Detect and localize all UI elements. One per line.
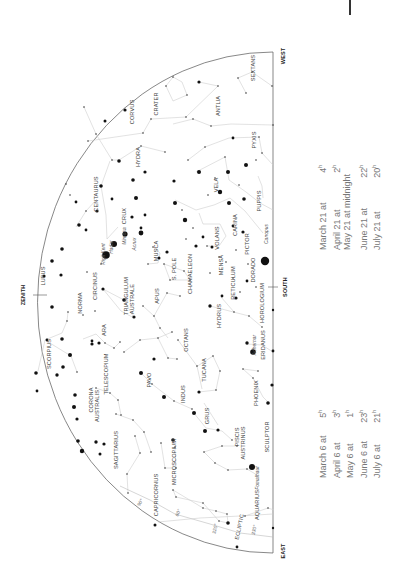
- constellation-label: SCULPTOR: [265, 421, 271, 452]
- star-label: Acrux: [133, 238, 138, 251]
- constellation-label: DORADO: [251, 257, 257, 282]
- constellation-label: INDUS: [181, 385, 187, 403]
- constellation-label: PICTOR: [245, 233, 251, 255]
- star-label: Fomalhaut: [256, 466, 261, 490]
- constellation-label: AUSTRINUS: [241, 426, 247, 459]
- constellation-label: NORMA: [78, 292, 84, 313]
- constellation-label: CORVUS: [130, 100, 136, 124]
- time-row: April 6 at3h: [328, 410, 342, 478]
- constellation-label: CARINA: [233, 214, 239, 236]
- constellation-label: CHAMAELEON: [188, 254, 194, 294]
- constellation-label: CRUX: [122, 208, 128, 224]
- constellation-label: HYDRUS: [217, 304, 223, 328]
- hour-superscript: h: [331, 410, 337, 413]
- constellation-label: PUPPIS: [257, 190, 263, 211]
- constellation-label: SAGITTARIUS: [114, 431, 120, 469]
- constellation-label: AUSTRALE: [130, 284, 136, 314]
- constellation-label: CIRCINUS: [93, 272, 99, 300]
- constellation-label: S. POLE: [172, 258, 178, 280]
- constellation-label: HYDRA: [136, 147, 142, 167]
- direction-south: SOUTH: [283, 277, 289, 297]
- hour-superscript: h: [317, 410, 323, 413]
- constellation-label: TELESCOPIUM: [104, 353, 110, 394]
- constellation-label: ARA: [102, 324, 108, 336]
- constellation-label: ANTLIA: [216, 96, 222, 116]
- hour-superscript: h: [344, 410, 350, 413]
- time-row: May 21 at midnight: [341, 165, 355, 250]
- times-table-right: March 21 at4hApril 21 at2hMay 21 at midn…: [314, 165, 382, 250]
- time-row-hour: 20h: [368, 165, 385, 190]
- constellation-label: VELA: [214, 178, 220, 193]
- time-row-date: July 21 at: [371, 190, 385, 250]
- time-row: July 6 at21h: [368, 410, 382, 478]
- star-label: Hadar: [110, 240, 115, 254]
- time-row-date: July 6 at: [371, 430, 385, 478]
- constellation-label: AQUARIUS: [255, 490, 261, 520]
- time-row: May 6 at1h: [341, 410, 355, 478]
- constellation-label: MICROSCOPIUM: [172, 439, 178, 485]
- time-row: March 21 at4h: [314, 165, 328, 250]
- hour-superscript: h: [371, 410, 377, 413]
- time-row: June 6 at23h: [355, 410, 369, 478]
- constellation-label: CAPRICORNUS: [154, 474, 160, 516]
- constellation-label: ERIDANUS: [261, 330, 267, 360]
- constellation-label: CRATER: [154, 92, 160, 115]
- constellation-label: PAVO: [147, 372, 153, 387]
- constellation-label: SEXTANS: [251, 55, 257, 81]
- time-row-hour: 21h: [368, 410, 385, 430]
- star-label: Achernar: [253, 335, 258, 355]
- constellation-label: AUSTRALIS: [95, 390, 101, 422]
- direction-west: WEST: [281, 48, 287, 64]
- canopus-star: [261, 257, 269, 265]
- hour-superscript: h: [371, 165, 377, 168]
- constellation-label: TUCANA: [202, 358, 208, 382]
- constellation-label: PYXIS: [252, 132, 258, 149]
- constellation-label: CENTAURUS: [94, 176, 100, 211]
- direction-zenith: ZENITH: [21, 285, 27, 305]
- constellation-label: SCORPIUS: [47, 339, 53, 369]
- constellation-label: LUPUS: [41, 266, 47, 285]
- hour-superscript: h: [331, 165, 337, 168]
- constellation-label: GRUS: [205, 408, 211, 425]
- hour-superscript: h: [358, 165, 364, 168]
- constellation-label: APUS: [155, 288, 161, 304]
- time-row: June 21 at22h: [355, 165, 369, 250]
- constellation-label: OCTANS: [184, 328, 190, 352]
- constellation-lines: [38, 72, 274, 537]
- hour-superscript: h: [317, 165, 323, 168]
- constellation-label: PHOENIX: [254, 380, 260, 406]
- times-table-left: March 6 at5hApril 6 at3hMay 6 at1hJune 6…: [314, 410, 382, 478]
- star-chart: [0, 0, 411, 575]
- time-row-date: May 21 at midnight: [341, 190, 355, 250]
- constellation-label: MUSCA: [154, 241, 160, 262]
- time-row: July 21 at20h: [368, 165, 382, 250]
- hour-superscript: h: [358, 410, 364, 413]
- direction-east: EAST: [281, 543, 287, 558]
- time-row: April 21 at2h: [328, 165, 342, 250]
- constellation-label: MENSA: [219, 255, 225, 275]
- constellation-label: RETICULUM: [231, 266, 237, 300]
- time-row: March 6 at5h: [314, 410, 328, 478]
- star-label: Canopus: [265, 224, 270, 244]
- constellation-label: HOROLOGIUM: [260, 283, 266, 323]
- star-label: Rigil Kent: [102, 243, 107, 265]
- star-label: Mimosa: [123, 227, 128, 244]
- constellation-label: VOLANS: [215, 226, 221, 249]
